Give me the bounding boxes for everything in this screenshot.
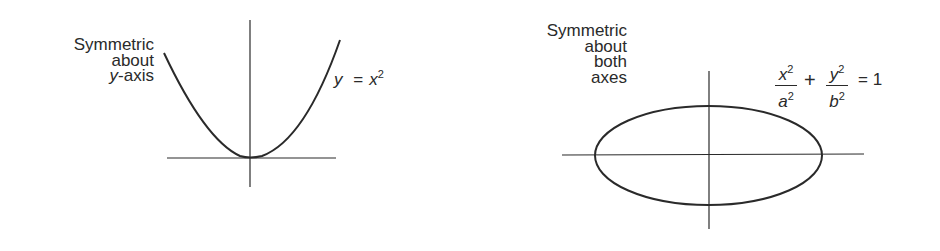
frac2-num-exp: 2 (838, 63, 844, 75)
frac2-num: y (830, 65, 839, 84)
frac1-den-exp: 2 (788, 90, 794, 102)
eq-op: = (353, 70, 363, 89)
eq-lhs: y (334, 70, 343, 89)
fraction-y-over-b: y2 b2 (826, 60, 848, 111)
parabola-figure (164, 20, 340, 187)
parabola-caption: Symmetric about y-axis (74, 37, 154, 84)
frac2-den-exp: 2 (839, 90, 845, 102)
parabola-caption-line-3: y-axis (74, 68, 154, 84)
frac1-den: a (778, 92, 787, 111)
eq-rhs-base: x (369, 70, 378, 89)
fraction-bar (775, 85, 797, 86)
ellipse-x-axis (562, 154, 864, 155)
equals-one: = 1 (858, 70, 882, 90)
frac1-num-exp: 2 (787, 63, 793, 75)
parabola-curve (164, 40, 340, 158)
caption-axis-text: -axis (118, 66, 154, 85)
ellipse-caption-line-4: axes (547, 70, 627, 86)
ellipse-caption: Symmetric about both axes (547, 23, 627, 85)
plus-sign: + (804, 69, 816, 92)
caption-var-y: y (110, 66, 119, 85)
frac2-den: b (829, 92, 838, 111)
fraction-x-over-a: x2 a2 (775, 60, 797, 111)
fraction-bar (826, 85, 848, 86)
ellipse-figure (562, 71, 864, 229)
eq-rhs-exp: 2 (378, 68, 384, 80)
frac1-num: x (779, 65, 788, 84)
parabola-equation: y =x2 (334, 68, 384, 90)
